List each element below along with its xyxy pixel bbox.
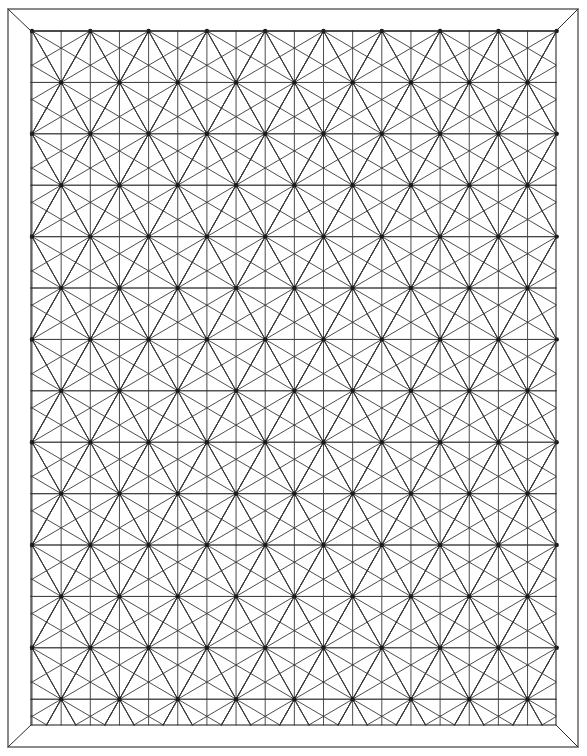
hub-node	[263, 132, 267, 136]
hub-node	[117, 80, 121, 84]
hub-node	[59, 389, 63, 393]
hub-node	[117, 491, 121, 495]
hub-node	[59, 286, 63, 290]
hub-node	[350, 491, 354, 495]
hub-node	[205, 234, 209, 238]
hub-node	[205, 132, 209, 136]
hub-node	[467, 389, 471, 393]
hub-node	[438, 337, 442, 341]
hub-node	[525, 389, 529, 393]
hub-node	[380, 646, 384, 650]
hub-node	[263, 337, 267, 341]
hub-node	[263, 234, 267, 238]
hub-node	[292, 286, 296, 290]
hub-node	[409, 491, 413, 495]
hub-node	[263, 543, 267, 547]
hub-node	[525, 697, 529, 701]
hub-node	[350, 183, 354, 187]
hub-node	[555, 646, 559, 650]
hub-node	[176, 389, 180, 393]
hub-node	[292, 697, 296, 701]
hub-node	[117, 183, 121, 187]
hub-node	[234, 697, 238, 701]
hub-node	[555, 440, 559, 444]
hub-node	[88, 440, 92, 444]
hub-node	[263, 440, 267, 444]
hub-node	[380, 337, 384, 341]
hub-node	[59, 183, 63, 187]
hub-node	[467, 286, 471, 290]
pattern-plate	[0, 0, 587, 756]
hub-node	[380, 440, 384, 444]
hub-node	[555, 132, 559, 136]
hub-node	[176, 80, 180, 84]
hub-node	[525, 491, 529, 495]
hub-node	[146, 234, 150, 238]
hub-node	[467, 80, 471, 84]
hub-node	[234, 80, 238, 84]
hub-node	[350, 80, 354, 84]
hub-node	[146, 543, 150, 547]
hub-node	[292, 491, 296, 495]
hub-node	[525, 286, 529, 290]
hub-node	[555, 234, 559, 238]
hub-node	[205, 440, 209, 444]
hub-node	[350, 697, 354, 701]
hub-node	[176, 594, 180, 598]
hub-node	[176, 491, 180, 495]
hub-node	[146, 646, 150, 650]
hub-node	[409, 183, 413, 187]
hub-node	[292, 594, 296, 598]
hub-node	[555, 543, 559, 547]
hub-node	[59, 80, 63, 84]
hub-node	[292, 389, 296, 393]
hub-node	[234, 286, 238, 290]
hub-node	[525, 594, 529, 598]
hub-node	[380, 234, 384, 238]
hub-node	[117, 389, 121, 393]
hub-node	[205, 543, 209, 547]
hub-node	[438, 543, 442, 547]
hub-node	[146, 132, 150, 136]
hub-node	[409, 80, 413, 84]
hub-node	[438, 234, 442, 238]
hub-node	[496, 337, 500, 341]
hub-node	[525, 183, 529, 187]
hub-node	[234, 389, 238, 393]
hub-node	[496, 646, 500, 650]
hub-node	[88, 646, 92, 650]
hub-node	[234, 594, 238, 598]
hub-node	[496, 132, 500, 136]
hub-node	[467, 697, 471, 701]
hub-node	[438, 440, 442, 444]
hub-node	[438, 646, 442, 650]
hub-node	[321, 543, 325, 547]
hub-node	[88, 132, 92, 136]
hub-node	[409, 389, 413, 393]
hub-node	[525, 80, 529, 84]
hub-node	[146, 337, 150, 341]
hub-node	[380, 132, 384, 136]
hub-node	[496, 543, 500, 547]
hub-node	[234, 183, 238, 187]
hub-node	[234, 491, 238, 495]
asanoha-artwork	[0, 0, 587, 756]
hub-node	[205, 337, 209, 341]
hub-node	[59, 594, 63, 598]
hub-node	[117, 594, 121, 598]
hub-node	[409, 697, 413, 701]
hub-node	[292, 183, 296, 187]
hub-node	[409, 594, 413, 598]
hub-node	[555, 337, 559, 341]
hub-node	[88, 543, 92, 547]
hub-node	[59, 491, 63, 495]
hub-node	[59, 697, 63, 701]
hub-node	[467, 594, 471, 598]
hub-node	[467, 491, 471, 495]
hub-node	[350, 389, 354, 393]
hub-node	[263, 646, 267, 650]
hub-node	[205, 646, 209, 650]
hub-node	[176, 183, 180, 187]
hub-node	[88, 234, 92, 238]
hub-node	[88, 337, 92, 341]
